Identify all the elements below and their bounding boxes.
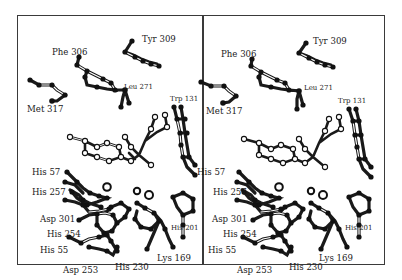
- label-phe306: Phe 306: [52, 47, 88, 57]
- label-trp131: Trp 131: [170, 95, 198, 103]
- label-his55: His 55: [40, 245, 68, 255]
- residue-labels: Tyr 309 Phe 306 Leu 271 Trp 131 Met 317 …: [27, 34, 199, 275]
- label-leu271: Leu 271: [304, 84, 333, 92]
- label-tyr309: Tyr 309: [313, 36, 347, 46]
- label-his57: His 57: [197, 167, 225, 177]
- label-trp131: Trp 131: [338, 97, 366, 105]
- metal-ions: [275, 183, 327, 199]
- label-his230: His 230: [289, 262, 323, 272]
- label-met317: Met 317: [206, 106, 242, 116]
- label-leu271: Leu 271: [124, 83, 153, 91]
- label-his257: His 257: [213, 187, 247, 197]
- label-phe306: Phe 306: [221, 49, 257, 59]
- label-asp253: Asp 253: [236, 265, 272, 275]
- label-met317: Met 317: [27, 104, 63, 114]
- label-his254: His 254: [47, 229, 81, 239]
- label-lys169: Lys 169: [319, 253, 353, 263]
- label-his201: His 201: [345, 224, 373, 232]
- label-asp253: Asp 253: [62, 265, 98, 275]
- label-lys169: Lys 169: [157, 253, 191, 263]
- metal-ions: [103, 183, 153, 199]
- left-stereo-panel: Tyr 309 Phe 306 Leu 271 Trp 131 Met 317 …: [17, 15, 202, 265]
- label-his55: His 55: [208, 245, 236, 255]
- label-his230: His 230: [115, 262, 149, 272]
- label-his257: His 257: [32, 187, 66, 197]
- label-his57: His 57: [32, 167, 60, 177]
- label-his201: His 201: [171, 224, 199, 232]
- right-stereo-panel: Tyr 309 Phe 306 Leu 271 Trp 131 Met 317 …: [203, 15, 388, 265]
- label-asp301: Asp 301: [211, 214, 247, 224]
- label-tyr309: Tyr 309: [142, 34, 176, 44]
- label-asp301: Asp 301: [39, 214, 75, 224]
- label-his254: His 254: [223, 229, 257, 239]
